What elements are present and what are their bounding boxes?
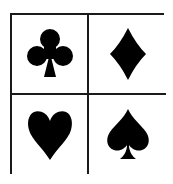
cell-diamond[interactable] [89, 15, 166, 95]
diamond-icon [108, 27, 148, 81]
club-icon [25, 27, 75, 81]
cell-spade[interactable] [89, 95, 166, 174]
card-suits-grid [10, 13, 164, 174]
cell-heart[interactable] [12, 95, 89, 174]
spade-icon [105, 108, 151, 162]
cell-club[interactable] [12, 15, 89, 95]
heart-icon [27, 109, 73, 161]
